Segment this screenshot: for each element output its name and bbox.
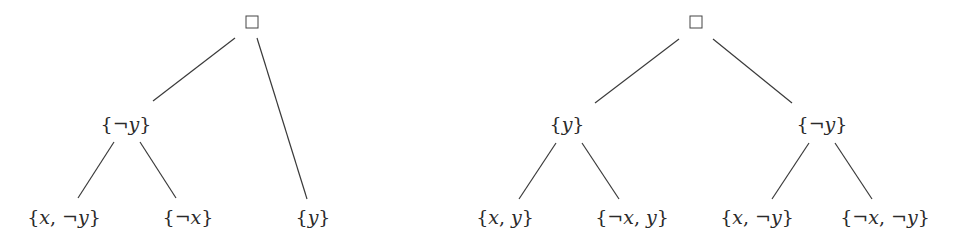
- tree-edge: [140, 142, 176, 198]
- tree-edge: [519, 143, 556, 199]
- tree-edge: [582, 143, 619, 199]
- tree-node: {¬y}: [797, 115, 848, 134]
- root-node-box: [690, 16, 703, 29]
- tree-node: {¬x}: [163, 208, 214, 227]
- tree-node: {¬x, ¬y}: [840, 208, 930, 227]
- tree-node: {x, ¬y}: [27, 208, 101, 227]
- tree-edge: [835, 143, 872, 199]
- tree-node: {x, y}: [476, 208, 534, 227]
- tree-node: {¬x, y}: [595, 208, 669, 227]
- tree-edge: [78, 142, 114, 198]
- tree-edge: [595, 39, 679, 103]
- tree-node: {x, ¬y}: [720, 208, 794, 227]
- tree-node: {¬y}: [101, 115, 152, 134]
- tree-edge: [257, 38, 307, 199]
- tree-edge: [772, 143, 809, 199]
- tree-node: {y}: [550, 115, 585, 134]
- tree-edge: [153, 38, 235, 101]
- root-node-box: [246, 16, 259, 29]
- tree-node: {y}: [296, 208, 331, 227]
- tree-edge: [713, 39, 792, 103]
